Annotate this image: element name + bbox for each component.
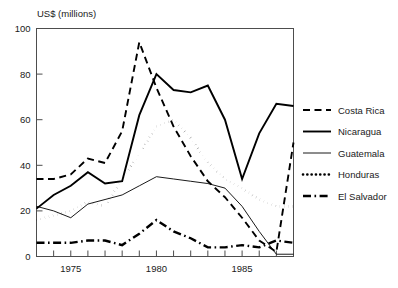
legend-label-guatemala: Guatemala [338,148,385,159]
y-axis-ticks [37,74,43,211]
legend-label-nicaragua: Nicaragua [338,126,382,137]
y-tick-label: 80 [20,69,31,80]
legend-label-el-salvador: El Salvador [338,191,387,202]
y-axis-title: US$ (millions) [37,8,96,19]
y-tick-label: 60 [20,114,31,125]
x-axis-ticks [54,251,277,257]
y-tick-label: 100 [15,23,31,34]
y-tick-label: 20 [20,205,31,216]
chart-figure: US$ (millions) 020406080100 197519801985… [0,0,398,288]
line-chart: US$ (millions) 020406080100 197519801985… [0,0,398,288]
series-line-nicaragua [37,74,294,209]
x-tick-label: 1980 [146,263,167,274]
plot-series-group [37,42,294,254]
x-tick-label: 1975 [60,263,81,274]
x-axis-tick-labels: 197519801985 [60,263,252,274]
x-tick-label: 1985 [232,263,253,274]
chart-legend: Costa RicaNicaraguaGuatemalaHondurasEl S… [303,105,387,202]
y-tick-label: 40 [20,160,31,171]
legend-label-honduras: Honduras [338,169,379,180]
y-axis-tick-labels: 020406080100 [15,23,31,262]
legend-label-costa-rica: Costa Rica [338,105,385,116]
y-tick-label: 0 [25,251,30,262]
